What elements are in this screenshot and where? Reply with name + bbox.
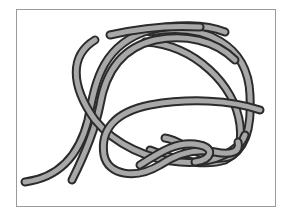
- rope-knot-illustration: [0, 0, 301, 221]
